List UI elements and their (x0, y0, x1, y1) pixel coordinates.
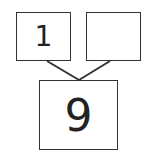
part-box-right[interactable] (86, 12, 141, 61)
part-value-left: 1 (35, 20, 53, 53)
part-box-left: 1 (16, 12, 71, 61)
whole-box: 9 (39, 80, 118, 150)
whole-value: 9 (65, 90, 93, 141)
